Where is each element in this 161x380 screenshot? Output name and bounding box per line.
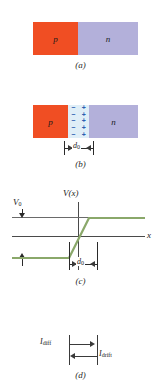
dim-tick-right	[93, 141, 94, 155]
v0-arrow-down-icon	[19, 213, 25, 218]
n-region-block-a: n	[78, 22, 138, 55]
panel-b: p − − − − − + + + + +	[0, 95, 161, 180]
depletion-charge-grid: − − − − − + + + + +	[68, 105, 89, 138]
drift-current-label: Idrift	[99, 349, 112, 358]
n-region-label-b: n	[111, 117, 116, 127]
drift-current-arrow-shaft	[74, 356, 97, 357]
potential-curve-low-plateau	[12, 257, 70, 259]
horizontal-axis	[12, 236, 145, 237]
potential-curve-ramp	[68, 231, 70, 233]
plus-sign: +	[82, 132, 86, 138]
n-region-label-a: n	[106, 34, 111, 44]
dim-arrow-left-icon	[86, 145, 91, 151]
p-region-block-a: p	[33, 22, 78, 55]
v0-arrow-shaft-bottom	[22, 258, 23, 266]
d0-arrow-left-icon-c	[90, 261, 95, 267]
depletion-width-label: d0	[72, 141, 81, 150]
panel-caption-b: (b)	[0, 159, 161, 169]
diffusion-current-arrow-shaft	[70, 344, 92, 345]
minus-sign: −	[71, 132, 75, 138]
depletion-zone-block: − − − − − + + + + +	[68, 105, 89, 138]
depletion-width-label-c: d0	[76, 257, 85, 266]
depletion-width-dimension: d0	[0, 138, 161, 158]
diffusion-current-label: Idiff	[40, 337, 51, 346]
depletion-positive-column: + + + + +	[79, 105, 90, 138]
panel-caption-a: (a)	[0, 60, 161, 70]
panel-a: p n (a)	[0, 0, 161, 80]
vertical-axis-label: V(x)	[63, 188, 79, 198]
panel-caption-c: (c)	[0, 276, 161, 286]
panel-d: Idiff Idrift (d)	[0, 330, 161, 379]
panel-caption-d: (d)	[0, 370, 161, 380]
n-region-block-b: n	[89, 105, 138, 138]
junction-line-right	[97, 335, 98, 365]
horizontal-axis-label: x	[147, 230, 151, 240]
d0-tick-left-c	[69, 242, 70, 270]
potential-curve-high-plateau	[88, 217, 145, 219]
p-region-label-a: p	[53, 34, 58, 44]
depletion-negative-column: − − − − −	[68, 105, 79, 138]
d0-tick-right-c	[97, 242, 98, 270]
potential-label: V0	[13, 197, 22, 207]
drift-current-arrow-icon	[70, 353, 75, 359]
diffusion-current-arrow-icon	[90, 341, 95, 347]
panel-c: V(x) x V0 d0 (c)	[0, 188, 161, 298]
p-region-label-b: p	[48, 117, 53, 127]
junction-line-left	[69, 335, 70, 365]
p-region-block-b: p	[33, 105, 68, 138]
